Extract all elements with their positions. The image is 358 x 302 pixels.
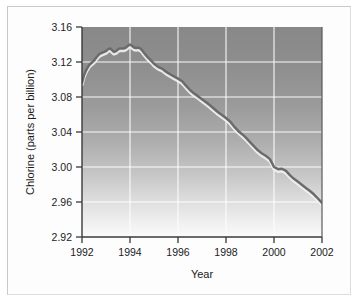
x-tick-label: 1998 [214,246,238,258]
x-tick-label: 2000 [262,246,286,258]
chart-figure: 3.16 3.12 3.08 3.04 3.00 2.96 2.92 1992 … [0,0,358,302]
y-tick-label: 2.92 [52,231,73,243]
y-axis-title: Chlorine (parts per billion) [24,69,36,195]
x-axis-title: Year [191,268,214,280]
x-tick-label: 1994 [118,246,142,258]
y-tick-label: 3.08 [52,91,73,103]
chlorine-line-chart: 3.16 3.12 3.08 3.04 3.00 2.96 2.92 1992 … [0,0,358,302]
x-tick-label: 1992 [70,246,94,258]
x-axis-tick-labels: 1992 1994 1996 1998 2000 2002 [70,246,334,258]
y-tick-label: 3.12 [52,56,73,68]
y-axis-ticks [76,27,82,237]
y-tick-label: 3.04 [52,126,73,138]
y-tick-label: 2.96 [52,196,73,208]
y-tick-label: 3.16 [52,21,73,33]
x-tick-label: 1996 [166,246,190,258]
y-tick-label: 3.00 [52,161,73,173]
x-axis-ticks [82,237,322,243]
y-axis-tick-labels: 3.16 3.12 3.08 3.04 3.00 2.96 2.92 [52,21,73,243]
x-tick-label: 2002 [310,246,334,258]
